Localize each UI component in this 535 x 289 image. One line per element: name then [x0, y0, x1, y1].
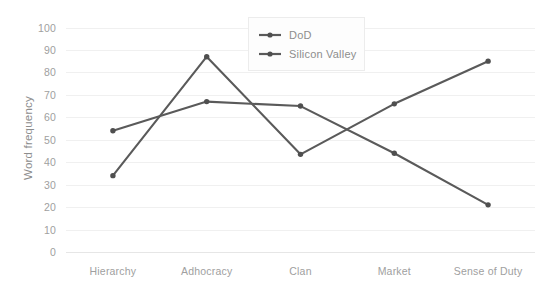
data-point-marker[interactable] [204, 54, 209, 59]
data-point-marker[interactable] [298, 152, 303, 157]
data-point-marker[interactable] [110, 128, 115, 133]
data-point-marker[interactable] [392, 101, 397, 106]
legend-item-dod[interactable]: DoD [258, 25, 352, 44]
data-point-marker[interactable] [485, 58, 490, 63]
line-chart: Word frequency 1009080706050403020100 Hi… [0, 0, 535, 289]
data-point-marker[interactable] [110, 173, 115, 178]
data-point-marker[interactable] [485, 202, 490, 207]
chart-legend: DoD Silicon Valley [248, 17, 365, 71]
legend-label-silicon-valley: Silicon Valley [289, 48, 356, 60]
legend-marker-icon [258, 48, 282, 60]
legend-item-silicon-valley[interactable]: Silicon Valley [258, 44, 352, 63]
legend-label-dod: DoD [289, 29, 312, 41]
data-point-marker[interactable] [298, 103, 303, 108]
data-point-marker[interactable] [392, 151, 397, 156]
series-line [113, 57, 488, 176]
data-point-marker[interactable] [204, 99, 209, 104]
legend-marker-icon [258, 29, 282, 41]
series-silicon-valley [110, 54, 491, 178]
